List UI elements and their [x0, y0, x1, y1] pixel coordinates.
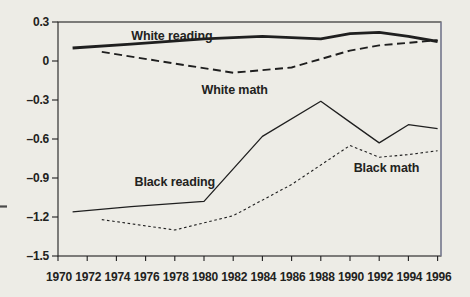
series-line-white-math	[102, 40, 438, 72]
x-axis-tick-label: 1990	[338, 270, 364, 284]
x-axis-tick-label: 1978	[163, 270, 189, 284]
x-axis-tick-label: 1976	[134, 270, 160, 284]
chart-svg: 0.30–0.3–0.6–0.9–1.2–1.51970197219741976…	[0, 0, 470, 297]
series-line-white-reading	[73, 32, 438, 48]
naep-score-gap-figure: 0.30–0.3–0.6–0.9–1.2–1.51970197219741976…	[0, 0, 470, 297]
series-label-white-reading: White reading	[131, 29, 212, 43]
plot-border	[58, 22, 441, 256]
series-label-white-math: White math	[201, 83, 267, 97]
x-axis-tick-label: 1970	[46, 270, 72, 284]
x-axis-tick-label: 1982	[221, 270, 247, 284]
x-axis-tick-label: 1974	[104, 270, 130, 284]
x-axis-tick-label: 1992	[367, 270, 393, 284]
y-axis-tick-label: –0.3	[26, 93, 49, 107]
x-axis-tick-label: 1972	[75, 270, 101, 284]
x-axis-tick-label: 1986	[280, 270, 306, 284]
x-axis-tick-label: 1988	[309, 270, 335, 284]
series-line-black-reading	[73, 101, 438, 212]
y-axis-tick-label: –1.5	[26, 249, 49, 263]
y-axis-tick-label: 0.3	[33, 15, 50, 29]
series-label-black-math: Black math	[354, 161, 420, 175]
x-axis-tick-label: 1984	[250, 270, 276, 284]
series-label-black-reading: Black reading	[134, 175, 215, 189]
x-axis-tick-label: 1980	[192, 270, 218, 284]
y-axis-tick-label: –0.6	[26, 132, 49, 146]
x-axis-tick-label: 1994	[396, 270, 422, 284]
y-axis-tick-label: –0.9	[26, 171, 49, 185]
y-axis-tick-label: –1.2	[26, 210, 49, 224]
y-axis-tick-label: 0	[43, 54, 50, 68]
x-axis-tick-label: 1996	[426, 270, 452, 284]
